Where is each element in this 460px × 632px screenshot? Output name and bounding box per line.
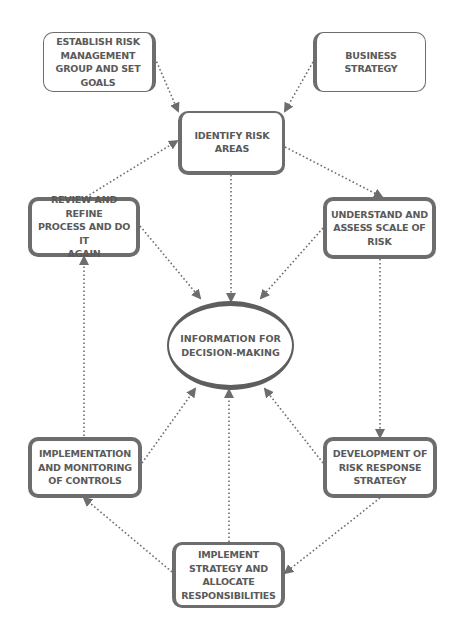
arrow-development-to-center bbox=[265, 389, 323, 463]
node-label: IMPLEMENT STRATEGY AND ALLOCATE RESPONSI… bbox=[181, 548, 276, 602]
node-implement-strategy: IMPLEMENT STRATEGY AND ALLOCATE RESPONSI… bbox=[172, 542, 285, 608]
node-development-risk-response: DEVELOPMENT OF RISK RESPONSE STRATEGY bbox=[323, 437, 437, 498]
risk-management-diagram: ESTABLISH RISK MANAGEMENT GROUP AND SET … bbox=[0, 0, 460, 632]
arrow-establish-to-identify bbox=[155, 58, 178, 111]
arrow-identify-to-understand bbox=[285, 147, 382, 197]
center-label: INFORMATION FOR DECISION-MAKING bbox=[180, 332, 281, 360]
node-identify-risk-areas: IDENTIFY RISK AREAS bbox=[178, 111, 285, 175]
node-label: UNDERSTAND AND ASSESS SCALE OF RISK bbox=[331, 208, 428, 249]
node-establish-risk-group: ESTABLISH RISK MANAGEMENT GROUP AND SET … bbox=[43, 32, 156, 92]
arrow-implementation-to-center bbox=[142, 389, 195, 463]
arrow-development-to-implement bbox=[285, 498, 380, 573]
node-implementation-monitoring: IMPLEMENTATION AND MONITORING OF CONTROL… bbox=[28, 437, 142, 498]
arrow-review-to-center bbox=[140, 226, 200, 298]
node-label: IDENTIFY RISK AREAS bbox=[194, 129, 269, 156]
node-business-strategy: BUSINESS STRATEGY bbox=[313, 32, 426, 92]
arrow-review-to-identify bbox=[86, 141, 177, 197]
node-label: BUSINESS STRATEGY bbox=[344, 49, 397, 76]
node-understand-assess: UNDERSTAND AND ASSESS SCALE OF RISK bbox=[323, 197, 436, 259]
node-label: IMPLEMENTATION AND MONITORING OF CONTROL… bbox=[38, 447, 132, 488]
node-label: REVIEW AND REFINE PROCESS AND DO IT AGAI… bbox=[36, 193, 132, 261]
node-information-decision-making: INFORMATION FOR DECISION-MAKING bbox=[167, 301, 294, 390]
arrow-business-to-identify bbox=[285, 62, 313, 111]
arrow-implement-to-implementation bbox=[84, 498, 172, 572]
arrow-understand-to-center bbox=[261, 228, 323, 298]
node-label: DEVELOPMENT OF RISK RESPONSE STRATEGY bbox=[333, 447, 427, 488]
node-review-refine: REVIEW AND REFINE PROCESS AND DO IT AGAI… bbox=[28, 197, 140, 257]
node-label: ESTABLISH RISK MANAGEMENT GROUP AND SET … bbox=[56, 35, 141, 89]
